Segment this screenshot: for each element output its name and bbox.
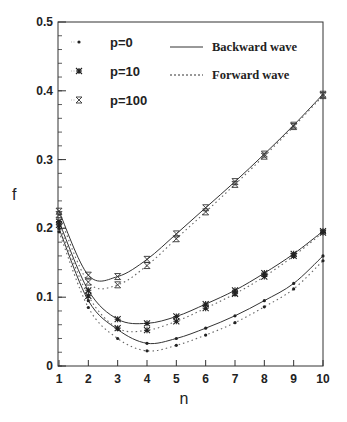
forward-wave-curve: [59, 96, 323, 289]
x-tick-label: 3: [114, 372, 121, 386]
x-axis-label: n: [180, 390, 189, 407]
legend-line-label: Backward wave: [212, 40, 298, 54]
x-tick-label: 9: [290, 372, 297, 386]
x-tick-label: 8: [261, 372, 268, 386]
legend-marker-label: p=100: [110, 93, 147, 108]
x-tick-label: 7: [232, 372, 239, 386]
forward-wave-curve: [59, 225, 323, 332]
y-tick-label: 0.3: [36, 153, 53, 167]
chart: 1234567891000.10.20.30.40.5 p=0p=10p=100…: [0, 0, 347, 422]
legend-marker-label: p=10: [110, 64, 140, 79]
y-tick-label: 0.1: [36, 290, 53, 304]
x-tick-label: 6: [202, 372, 209, 386]
backward-wave-curve: [59, 94, 323, 281]
y-tick-label: 0.4: [36, 84, 53, 98]
x-tick-label: 1: [56, 372, 63, 386]
backward-wave-curve: [59, 228, 323, 343]
backward-wave-curve: [59, 222, 323, 324]
x-tick-label: 2: [85, 372, 92, 386]
legend: p=0p=10p=100Backward waveForward wave: [71, 35, 298, 108]
legend-marker-label: p=0: [110, 35, 133, 50]
y-axis-label: f: [12, 186, 17, 203]
x-tick-label: 4: [144, 372, 151, 386]
x-tick-label: 5: [173, 372, 180, 386]
x-tick-label: 10: [316, 372, 330, 386]
legend-line-label: Forward wave: [212, 68, 290, 82]
y-tick-label: 0.2: [36, 221, 53, 235]
forward-wave-curve: [59, 232, 323, 351]
data-curves: [59, 94, 323, 351]
data-markers: [56, 91, 326, 352]
y-tick-label: 0: [46, 359, 53, 373]
y-tick-label: 0.5: [36, 15, 53, 29]
